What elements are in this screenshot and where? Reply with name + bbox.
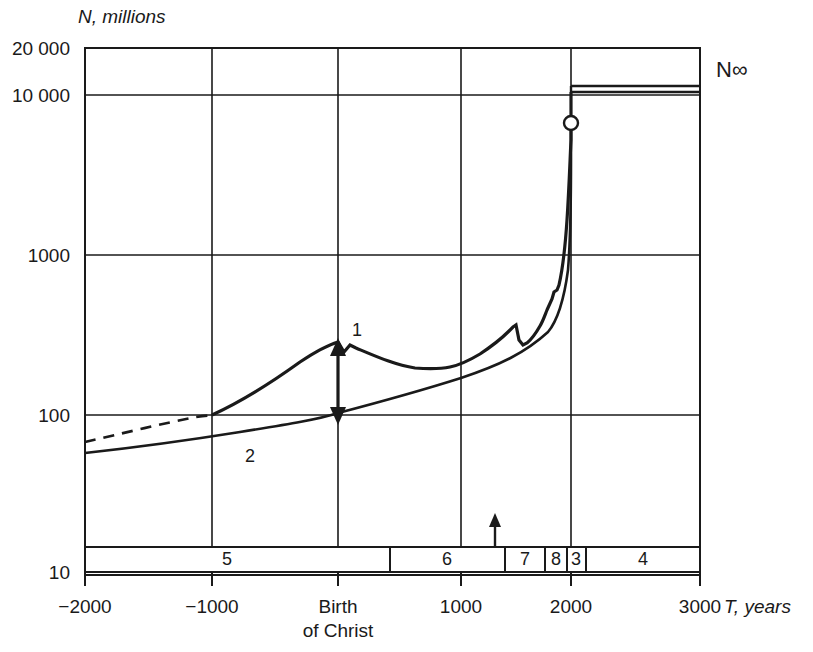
y-tick-label-10: 10 <box>0 562 70 584</box>
x-tick-label-birth-line1: Birth <box>278 596 398 618</box>
era-band-label-3: 3 <box>546 549 606 570</box>
x-tick-label-minus1000: −1000 <box>152 596 272 618</box>
era-band-label-4: 4 <box>613 549 673 570</box>
era-band-label-6: 6 <box>417 549 477 570</box>
y-tick-label-20000: 20 000 <box>0 38 70 60</box>
vertical-gridlines <box>212 48 571 575</box>
x-tick-label-1000: 1000 <box>401 596 521 618</box>
y-tick-label-10000: 10 000 <box>0 85 70 107</box>
x-tick-label-minus2000: −2000 <box>25 596 145 618</box>
double-arrow-head-up <box>330 338 346 356</box>
up-arrow-head <box>489 513 501 527</box>
curve-1-actual-population <box>212 122 571 415</box>
era-band-frame <box>85 547 700 572</box>
transition-point-marker <box>564 116 578 130</box>
y-tick-label-1000: 1000 <box>0 245 70 267</box>
era-band-label-5: 5 <box>197 549 257 570</box>
x-tick-label-2000: 2000 <box>511 596 631 618</box>
population-growth-chart: N, millions 20 000 10 000 1000 100 10 −2… <box>0 0 813 652</box>
population-gap-double-arrow <box>330 338 346 425</box>
horizontal-gridlines <box>85 95 700 415</box>
era-band <box>85 547 700 572</box>
y-tick-label-100: 100 <box>0 405 70 427</box>
plot-frame <box>85 48 700 575</box>
asymptote-line <box>571 86 700 92</box>
curve-2-smooth-fit <box>85 122 571 453</box>
chart-canvas <box>0 0 813 652</box>
y-axis-title: N, millions <box>78 6 166 28</box>
x-tick-label-birth-line2: of Christ <box>278 620 398 642</box>
up-arrow-icon <box>489 513 501 547</box>
curve-2-label: 2 <box>245 446 255 467</box>
curve-1-label: 1 <box>352 320 362 341</box>
x-axis-title: T, years <box>724 596 791 618</box>
asymptote-label: N∞ <box>716 57 748 83</box>
